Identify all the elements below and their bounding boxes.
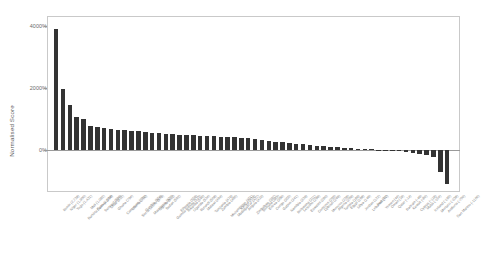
bar xyxy=(246,138,251,150)
bar xyxy=(424,150,429,155)
bar xyxy=(109,129,114,150)
bar xyxy=(260,140,265,150)
bar-series xyxy=(47,16,460,192)
y-axis-ticks: 0%2000%4000% xyxy=(0,0,47,261)
bar xyxy=(328,147,333,150)
bar xyxy=(239,138,244,150)
bar xyxy=(170,134,175,150)
bar xyxy=(397,150,402,151)
x-axis-labels: Benin (2,728)Niger (1,900)Togo (1,431)Bu… xyxy=(47,193,460,261)
bar xyxy=(88,126,93,150)
y-tick-label: 0% xyxy=(3,147,47,153)
bar xyxy=(177,135,182,151)
bar xyxy=(369,149,374,150)
bar xyxy=(143,132,148,150)
bar xyxy=(68,105,73,150)
bar xyxy=(417,150,422,154)
bar xyxy=(301,144,306,150)
bar xyxy=(116,130,121,150)
bar xyxy=(363,149,368,150)
bar xyxy=(383,150,388,151)
bar xyxy=(157,133,162,150)
y-tick-label: 2000% xyxy=(3,85,47,91)
bar xyxy=(102,128,107,150)
bar xyxy=(438,150,443,172)
bar xyxy=(54,29,59,150)
bar xyxy=(136,131,141,150)
bar xyxy=(205,136,210,150)
bar xyxy=(287,143,292,150)
bar xyxy=(273,142,278,150)
bar xyxy=(95,127,100,150)
bar xyxy=(376,150,381,151)
bar xyxy=(411,150,416,153)
bar xyxy=(280,142,285,150)
bar xyxy=(404,150,409,152)
bar xyxy=(212,136,217,150)
bar xyxy=(267,141,272,150)
bar xyxy=(232,137,237,150)
bar xyxy=(308,145,313,150)
bar xyxy=(81,119,86,150)
bar xyxy=(219,137,224,150)
bar xyxy=(129,131,134,150)
bar xyxy=(342,148,347,150)
bar xyxy=(164,134,169,150)
bar xyxy=(198,136,203,150)
bar xyxy=(253,139,258,150)
bar xyxy=(225,137,230,150)
bar xyxy=(321,146,326,150)
bar xyxy=(184,135,189,150)
bar xyxy=(445,150,450,184)
bar xyxy=(349,148,354,150)
bar xyxy=(191,135,196,150)
y-tick-label: 4000% xyxy=(3,23,47,29)
bar xyxy=(61,89,66,150)
bar xyxy=(294,144,299,150)
bar xyxy=(335,147,340,150)
bar xyxy=(122,130,127,150)
bar xyxy=(356,149,361,150)
bar xyxy=(390,150,395,151)
bar xyxy=(150,133,155,150)
bar xyxy=(315,146,320,150)
bar xyxy=(74,117,79,150)
bar xyxy=(431,150,436,157)
